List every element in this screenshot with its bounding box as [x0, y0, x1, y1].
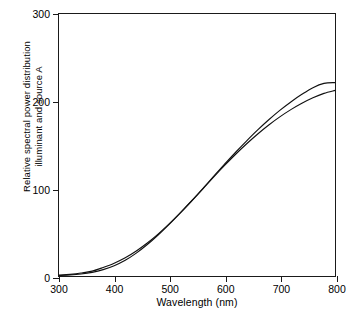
x-axis-tick-label-500: 500	[161, 283, 179, 295]
x-axis-tick	[226, 276, 227, 282]
y-axis-tick-label-100: 100	[32, 184, 50, 196]
x-axis-tick	[281, 276, 282, 282]
x-axis-label: Wavelength (nm)	[58, 296, 336, 308]
y-axis-tick-label-200: 200	[32, 96, 50, 108]
y-axis-label-line-1: Relative spectral power distribution	[21, 0, 33, 242]
x-axis-tick	[170, 276, 171, 282]
chart-figure: Relative spectral power distribution ill…	[0, 0, 348, 321]
y-axis-tick-label-300: 300	[32, 8, 50, 20]
x-axis-tick-label-400: 400	[106, 283, 124, 295]
x-axis-tick	[115, 276, 116, 282]
series-line-0	[59, 83, 335, 276]
y-axis-label: Relative spectral power distribution ill…	[21, 0, 44, 242]
x-axis-tick	[59, 276, 60, 282]
y-axis-tick-label-0: 0	[44, 272, 50, 284]
y-axis-tick	[53, 14, 59, 15]
x-axis-tick	[337, 276, 338, 282]
y-axis-label-line-2: illuminant and source A	[32, 0, 44, 242]
y-axis-tick	[53, 190, 59, 191]
series-line-1	[59, 90, 335, 275]
spectral-power-curves	[59, 14, 335, 276]
plot-area: 0100200300300400500600700800	[58, 13, 336, 277]
x-axis-tick-label-800: 800	[328, 283, 346, 295]
x-axis-tick-label-600: 600	[217, 283, 235, 295]
y-axis-tick	[53, 102, 59, 103]
x-axis-tick-label-300: 300	[50, 283, 68, 295]
x-axis-tick-label-700: 700	[273, 283, 291, 295]
